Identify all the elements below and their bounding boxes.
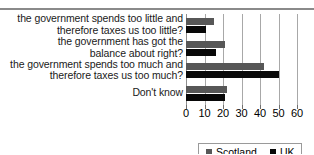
legend: Scotland UK: [198, 143, 302, 154]
category-label: Don't know: [3, 87, 183, 99]
chart-figure: 0102030405060 the government spends too …: [0, 0, 314, 154]
bar-uk: [186, 49, 216, 56]
category-label: the government spends too little andther…: [3, 13, 183, 36]
bar-scotland: [186, 86, 227, 93]
bar-uk: [186, 71, 279, 78]
legend-label-scotland: Scotland: [216, 146, 257, 155]
x-axis-tick-label: 60: [285, 107, 309, 120]
header-divider: [0, 8, 314, 10]
legend-label-uk: UK: [280, 146, 295, 155]
bar-chart: 0102030405060 the government spends too …: [0, 12, 314, 154]
chart-category-row: the government spends too much andtheref…: [0, 60, 314, 83]
bar-scotland: [186, 63, 264, 70]
chart-category-row: the government spends too little andther…: [0, 14, 314, 37]
legend-swatch-uk: [270, 149, 276, 155]
category-label-line: the government has got the: [3, 36, 183, 48]
chart-category-row: Don't know: [0, 82, 314, 105]
legend-item-scotland: Scotland: [206, 146, 257, 155]
legend-swatch-scotland: [206, 149, 212, 155]
legend-item-uk: UK: [270, 146, 295, 155]
category-label: the government spends too much andtheref…: [3, 59, 183, 82]
chart-category-row: the government has got thebalance about …: [0, 37, 314, 60]
category-label-line: therefore taxes us too much?: [3, 70, 183, 82]
bar-scotland: [186, 41, 225, 48]
bar-uk: [186, 94, 225, 101]
category-label-line: Don't know: [3, 87, 183, 99]
bar-scotland: [186, 18, 214, 25]
bar-uk: [186, 26, 206, 33]
category-label: the government has got thebalance about …: [3, 36, 183, 59]
